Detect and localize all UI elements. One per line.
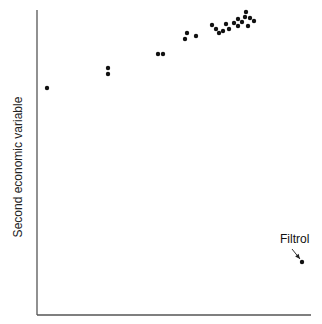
data-point bbox=[232, 21, 236, 25]
data-points bbox=[45, 10, 304, 264]
data-point bbox=[240, 20, 244, 24]
filtrol-annotation: Filtrol bbox=[280, 232, 309, 246]
data-point bbox=[210, 23, 214, 27]
data-point bbox=[45, 86, 49, 90]
data-point bbox=[252, 19, 256, 23]
data-point bbox=[106, 66, 110, 70]
data-point bbox=[217, 31, 221, 35]
data-point bbox=[161, 52, 165, 56]
data-point bbox=[221, 29, 225, 33]
data-point bbox=[185, 31, 189, 35]
annotation-arrow bbox=[292, 249, 300, 259]
data-point bbox=[243, 15, 247, 19]
data-point bbox=[300, 260, 304, 264]
data-point bbox=[236, 17, 240, 21]
data-point bbox=[236, 24, 240, 28]
data-point bbox=[106, 72, 110, 76]
data-point bbox=[227, 27, 231, 31]
y-axis-label: Second economic variable bbox=[11, 87, 25, 247]
data-point bbox=[244, 10, 248, 14]
data-point bbox=[248, 16, 252, 20]
data-point bbox=[183, 37, 187, 41]
data-point bbox=[246, 24, 250, 28]
data-point bbox=[214, 27, 218, 31]
data-point bbox=[194, 34, 198, 38]
scatter-chart bbox=[0, 0, 322, 324]
data-point bbox=[156, 52, 160, 56]
data-point bbox=[224, 22, 228, 26]
